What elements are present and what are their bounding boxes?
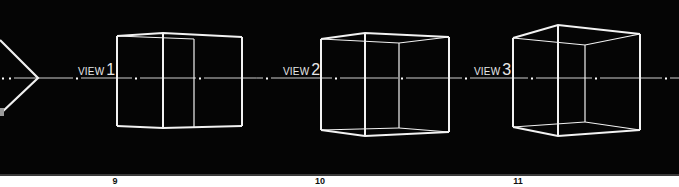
horizon-dot	[465, 78, 467, 80]
perspective-drawing	[0, 0, 679, 175]
view-2-label-word: VIEW	[283, 66, 309, 77]
cube-view-1	[117, 33, 242, 128]
horizon-dot	[2, 78, 4, 80]
horizon-dot	[199, 78, 201, 80]
horizon-dot	[595, 78, 597, 80]
cube-view-2	[321, 33, 449, 136]
horizon-dot	[9, 78, 11, 80]
horizon-dot	[335, 78, 337, 80]
view-1-label-number: 1	[106, 61, 115, 78]
horizon-dot	[665, 78, 667, 80]
view-3-label: VIEW3	[474, 62, 511, 78]
view-2-label: VIEW2	[283, 62, 320, 78]
view-3-label-number: 3	[502, 61, 511, 78]
figure-number-11: 11	[503, 176, 533, 186]
view-2-label-number: 2	[311, 61, 320, 78]
view-1-label: VIEW1	[78, 62, 115, 78]
horizon-dot	[266, 78, 268, 80]
view-3-label-word: VIEW	[474, 66, 500, 77]
horizon-dot	[531, 78, 533, 80]
horizon-dot	[135, 78, 137, 80]
cube-view-3	[513, 25, 640, 136]
horizon-dot	[401, 78, 403, 80]
view-1-label-word: VIEW	[78, 66, 104, 77]
figure-number-10: 10	[305, 176, 335, 186]
figure-number-9: 9	[100, 176, 130, 186]
